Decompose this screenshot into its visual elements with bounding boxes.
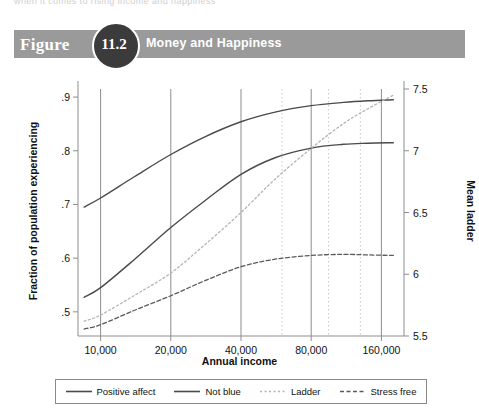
figure-caption-label: Money and Happiness: [146, 36, 282, 50]
legend-label: Not blue: [205, 386, 240, 397]
figure-number-label: 11.2: [92, 22, 136, 66]
y-tick-label-right: 6.5: [413, 207, 428, 219]
legend-swatch-dotted-light: [260, 387, 286, 396]
legend-entry-ladder[interactable]: Ladder: [260, 386, 321, 397]
chart-plot-area: .5.6.7.8.95.566.577.510,00020,00040,0008…: [0, 76, 479, 356]
legend-entry-not-blue[interactable]: Not blue: [174, 386, 240, 397]
y-tick-label-right: 7: [413, 145, 419, 157]
x-axis-title: Annual income: [0, 355, 479, 367]
legend-swatch-solid: [66, 387, 92, 396]
series-line-stress-free: [84, 254, 393, 329]
legend-label: Positive affect: [97, 386, 156, 397]
chart-svg: .5.6.7.8.95.566.577.510,00020,00040,0008…: [0, 76, 479, 356]
y-tick-label-right: 6: [413, 268, 419, 280]
legend-label: Stress free: [371, 386, 417, 397]
series-line-positive-affect: [84, 100, 393, 207]
chart-legend: Positive affectNot blueLadderStress free: [55, 379, 427, 404]
y-tick-label-left: .7: [61, 198, 70, 210]
y-tick-label-left: .9: [61, 91, 70, 103]
y-tick-label-left: .5: [61, 306, 70, 318]
legend-label: Ladder: [291, 386, 321, 397]
legend-entry-positive-affect[interactable]: Positive affect: [66, 386, 156, 397]
figure-word-label: Figure: [20, 35, 70, 55]
y-axis-right-title: Mean ladder: [465, 116, 477, 306]
y-tick-label-right: 5.5: [413, 330, 428, 342]
y-tick-label-right: 7.5: [413, 83, 428, 95]
y-axis-left-title: Fraction of population experiencing: [27, 116, 39, 306]
series-line-not-blue: [84, 143, 393, 298]
y-tick-label-left: .6: [61, 252, 70, 264]
legend-swatch-solid: [174, 387, 200, 396]
legend-swatch-dashed-dark: [340, 387, 366, 396]
series-line-ladder: [84, 95, 393, 321]
running-header-text: when it comes to rising income and happi…: [14, 0, 344, 8]
y-tick-label-left: .8: [61, 145, 70, 157]
legend-entry-stress-free[interactable]: Stress free: [340, 386, 417, 397]
